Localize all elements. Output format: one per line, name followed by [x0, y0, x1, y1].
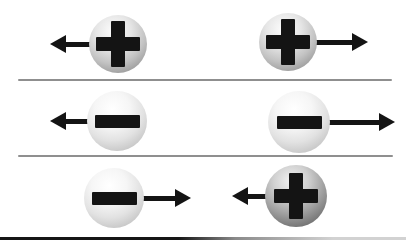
row-divider-line — [18, 79, 392, 81]
charge-symbol — [274, 173, 318, 219]
charge-symbol — [96, 21, 140, 67]
charged-sphere — [87, 91, 147, 151]
charged-sphere — [84, 168, 144, 228]
charge-diagram — [0, 0, 406, 246]
arrowhead-icon — [379, 113, 395, 131]
charged-sphere — [259, 13, 317, 71]
arrowhead-icon — [50, 35, 66, 53]
arrowhead-icon — [232, 187, 248, 205]
arrowhead-icon — [175, 189, 191, 207]
charge-symbol — [95, 115, 140, 128]
charged-sphere — [89, 15, 147, 73]
charged-sphere — [268, 91, 330, 153]
arrowhead-icon — [50, 112, 66, 130]
charged-sphere — [265, 165, 327, 227]
charge-symbol — [92, 192, 137, 205]
charge-symbol — [266, 19, 310, 65]
row-divider-line — [18, 155, 393, 157]
arrowhead-icon — [352, 33, 368, 51]
ground-line — [0, 237, 406, 240]
charge-symbol — [277, 116, 322, 129]
